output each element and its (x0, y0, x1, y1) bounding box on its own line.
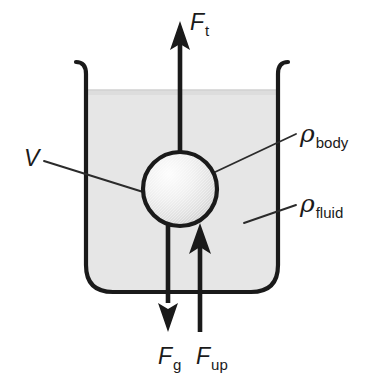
gravity-arrow-head (158, 303, 178, 332)
label-force-gravity-symbol: F (158, 343, 174, 369)
label-density-body: ρbody (299, 119, 349, 151)
label-force-gravity: Fg (158, 343, 181, 373)
label-force-tension-symbol: F (190, 9, 206, 35)
label-force-gravity-subscript: g (173, 356, 181, 373)
label-volume: V (24, 145, 42, 171)
label-volume-symbol: V (24, 145, 42, 171)
label-density-fluid-subscript: fluid (316, 204, 344, 221)
label-force-tension-subscript: t (205, 22, 210, 39)
label-density-fluid-symbol: ρ (299, 189, 315, 218)
buoyancy-diagram: Ft Fg Fup V ρbody ρfluid (0, 0, 392, 375)
label-density-body-subscript: body (316, 134, 349, 151)
label-density-fluid: ρfluid (299, 189, 343, 221)
label-force-buoyancy: Fup (196, 343, 228, 373)
body-sphere (143, 152, 217, 226)
label-force-buoyancy-subscript: up (211, 356, 228, 373)
label-force-tension: Ft (190, 9, 210, 39)
label-force-buoyancy-symbol: F (196, 343, 212, 369)
diagram-canvas: Ft Fg Fup V ρbody ρfluid (0, 0, 392, 375)
label-density-body-symbol: ρ (299, 119, 315, 148)
